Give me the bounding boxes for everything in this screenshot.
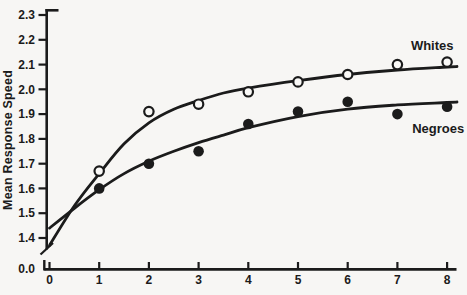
whites-point bbox=[194, 100, 203, 109]
y-tick-label: 1.7 bbox=[18, 157, 35, 171]
y-tick-label: 1.9 bbox=[18, 107, 35, 121]
negroes-point bbox=[243, 119, 254, 130]
whites-point bbox=[144, 107, 153, 116]
negroes-point bbox=[342, 96, 353, 107]
y-tick-label: 1.6 bbox=[18, 182, 35, 196]
y-tick-label: 1.4 bbox=[18, 231, 35, 245]
y-tick-label: 1.5 bbox=[18, 206, 35, 220]
x-tick-label: 2 bbox=[146, 273, 153, 287]
negroes-point bbox=[392, 109, 403, 120]
response-speed-chart: 2.32.22.12.01.91.81.71.61.51.40.00123456… bbox=[0, 0, 467, 295]
y-axis-title: Mean Response Speed bbox=[1, 70, 15, 210]
x-tick-label: 0 bbox=[46, 273, 53, 287]
y-tick-label: 2.2 bbox=[18, 33, 35, 47]
y-tick-label: 2.3 bbox=[18, 8, 35, 22]
whites-point bbox=[244, 87, 253, 96]
whites-point bbox=[95, 166, 104, 175]
whites-point bbox=[393, 60, 402, 69]
x-tick-label: 6 bbox=[344, 273, 351, 287]
x-tick-label: 8 bbox=[444, 273, 451, 287]
y-tick-label: 2.1 bbox=[18, 58, 35, 72]
figure-container: 2.32.22.12.01.91.81.71.61.51.40.00123456… bbox=[0, 0, 467, 295]
series-label-negroes: Negroes bbox=[412, 121, 464, 136]
series-label-whites: Whites bbox=[411, 38, 454, 53]
x-tick-label: 7 bbox=[394, 273, 401, 287]
negroes-point bbox=[293, 106, 304, 117]
y-tick-label: 2.0 bbox=[18, 83, 35, 97]
x-tick-label: 3 bbox=[195, 273, 202, 287]
negroes-point bbox=[193, 146, 204, 157]
negroes-point bbox=[144, 158, 155, 169]
whites-point bbox=[343, 70, 352, 79]
y-tick-label: 1.8 bbox=[18, 132, 35, 146]
negroes-point bbox=[94, 183, 105, 194]
negroes-point bbox=[442, 101, 453, 112]
x-tick-label: 5 bbox=[295, 273, 302, 287]
x-tick-label: 1 bbox=[96, 273, 103, 287]
whites-point bbox=[442, 57, 451, 66]
whites-point bbox=[293, 77, 302, 86]
chart-background bbox=[0, 0, 467, 295]
y-axis-break-label: 0.0 bbox=[18, 262, 35, 276]
x-tick-label: 4 bbox=[245, 273, 252, 287]
